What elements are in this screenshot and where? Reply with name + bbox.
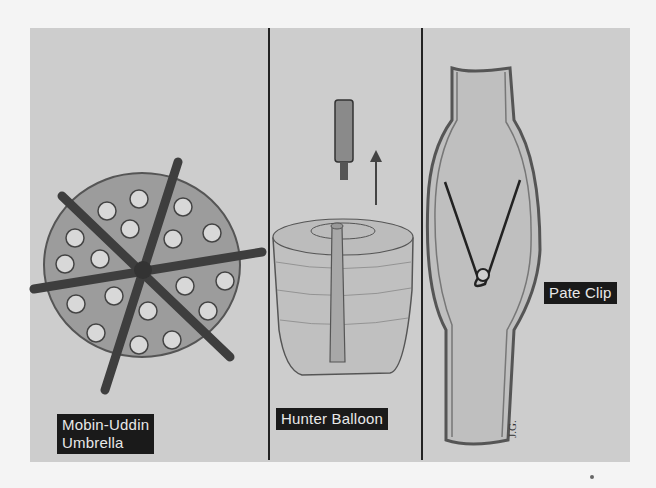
label-line-1: Pate Clip — [549, 284, 612, 302]
balloon-illustration — [273, 100, 413, 375]
umbrella-illustration — [34, 162, 262, 390]
label-line-1: Mobin-Uddin — [62, 416, 149, 434]
label-mobin-uddin-umbrella: Mobin-Uddin Umbrella — [57, 414, 154, 454]
stray-mark — [590, 475, 594, 479]
label-line-1: Hunter Balloon — [281, 410, 383, 428]
label-pate-clip: Pate Clip — [544, 282, 617, 304]
artist-signature: J.G. — [506, 420, 518, 438]
clip-illustration: J.G. — [427, 68, 540, 444]
label-line-2: Umbrella — [62, 434, 149, 452]
label-hunter-balloon: Hunter Balloon — [276, 408, 388, 430]
